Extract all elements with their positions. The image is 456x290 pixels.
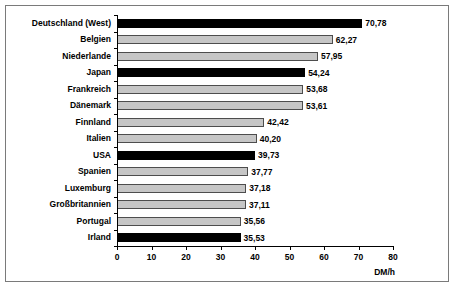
category-label-7: Italien (3, 134, 111, 143)
bar-value-label-2: 57,95 (321, 51, 342, 61)
bar-row: 57,95 (118, 52, 394, 61)
bar-0[interactable] (118, 19, 362, 28)
category-label-10: Luxemburg (3, 184, 111, 193)
y-axis-tick-10 (114, 180, 118, 181)
x-axis-label-3: 30 (216, 252, 225, 262)
bar-4[interactable] (118, 85, 303, 94)
category-label-2: Niederlande (3, 52, 111, 61)
bar-value-label-10: 37,18 (249, 183, 270, 193)
bar-value-label-8: 39,73 (258, 150, 279, 160)
y-axis-tick-7 (114, 131, 118, 132)
bar-5[interactable] (118, 101, 303, 110)
category-label-12: Portugal (3, 217, 111, 226)
x-axis-tick-5 (290, 246, 291, 250)
bar-value-label-6: 42,42 (267, 117, 288, 127)
bar-12[interactable] (118, 217, 241, 226)
bar-value-label-5: 53,61 (306, 101, 327, 111)
bar-9[interactable] (118, 167, 248, 176)
category-label-13: Irland (3, 233, 111, 242)
bar-value-label-1: 62,27 (336, 35, 357, 45)
bar-value-label-4: 53,68 (306, 84, 327, 94)
bar-11[interactable] (118, 200, 246, 209)
y-axis-tick-12 (114, 213, 118, 214)
x-axis-label-2: 20 (181, 252, 190, 262)
category-label-6: Finnland (3, 118, 111, 127)
x-axis-label-8: 80 (388, 252, 397, 262)
y-axis-tick-2 (114, 48, 118, 49)
bar-value-label-11: 37,11 (249, 200, 270, 210)
bar-row: 35,56 (118, 217, 394, 226)
y-axis-tick-8 (114, 147, 118, 148)
x-axis-tick-8 (393, 246, 394, 250)
bar-7[interactable] (118, 134, 257, 143)
x-axis-label-5: 50 (285, 252, 294, 262)
y-axis-tick-1 (114, 32, 118, 33)
category-label-3: Japan (3, 68, 111, 77)
bar-value-label-13: 35,53 (244, 233, 265, 243)
bar-10[interactable] (118, 184, 246, 193)
bar-2[interactable] (118, 52, 318, 61)
y-axis-tick-5 (114, 98, 118, 99)
category-label-5: Dänemark (3, 101, 111, 110)
x-axis-tick-0 (117, 246, 118, 250)
x-axis-tick-6 (324, 246, 325, 250)
x-axis-tick-7 (359, 246, 360, 250)
category-label-11: Großbritannien (3, 200, 111, 209)
category-label-9: Spanien (3, 167, 111, 176)
x-axis-tick-4 (255, 246, 256, 250)
x-axis-label-0: 0 (115, 252, 120, 262)
x-axis-label-7: 70 (354, 252, 363, 262)
bar-row: 35,53 (118, 233, 394, 242)
bar-row: 53,61 (118, 101, 394, 110)
category-label-0: Deutschland (West) (3, 19, 111, 28)
bar-value-label-12: 35,56 (244, 216, 265, 226)
x-axis-title: DM/h (374, 267, 395, 277)
y-axis-tick-13 (114, 230, 118, 231)
y-axis-tick-3 (114, 65, 118, 66)
x-axis-tick-1 (152, 246, 153, 250)
bar-row: 70,78 (118, 19, 394, 28)
category-axis-labels: Deutschland (West)BelgienNiederlandeJapa… (6, 15, 114, 246)
plot-area: 70,7862,2757,9554,2453,6853,6142,4240,20… (117, 15, 393, 246)
bar-3[interactable] (118, 68, 305, 77)
bar-6[interactable] (118, 118, 264, 127)
bar-value-label-7: 40,20 (260, 134, 281, 144)
bar-row: 40,20 (118, 134, 394, 143)
y-axis-tick-11 (114, 197, 118, 198)
chart-frame: Deutschland (West)BelgienNiederlandeJapa… (5, 5, 449, 282)
y-axis-tick-9 (114, 164, 118, 165)
bar-13[interactable] (118, 233, 241, 242)
x-axis-tick-3 (221, 246, 222, 250)
bar-value-label-9: 37,77 (251, 167, 272, 177)
bar-row: 54,24 (118, 68, 394, 77)
x-axis-label-6: 60 (319, 252, 328, 262)
x-axis-label-1: 10 (147, 252, 156, 262)
y-axis-tick-4 (114, 81, 118, 82)
bar-row: 62,27 (118, 35, 394, 44)
y-axis-tick-6 (114, 114, 118, 115)
bar-row: 42,42 (118, 118, 394, 127)
bar-row: 37,11 (118, 200, 394, 209)
x-axis-label-4: 40 (250, 252, 259, 262)
bar-row: 37,18 (118, 184, 394, 193)
category-label-4: Frankreich (3, 85, 111, 94)
category-label-8: USA (3, 151, 111, 160)
category-label-1: Belgien (3, 35, 111, 44)
bar-8[interactable] (118, 151, 255, 160)
bar-row: 53,68 (118, 85, 394, 94)
bar-1[interactable] (118, 35, 333, 44)
bar-row: 37,77 (118, 167, 394, 176)
y-axis-tick-0 (114, 15, 118, 16)
bar-value-label-0: 70,78 (365, 18, 386, 28)
bar-value-label-3: 54,24 (308, 68, 329, 78)
x-axis-tick-2 (186, 246, 187, 250)
bar-row: 39,73 (118, 151, 394, 160)
